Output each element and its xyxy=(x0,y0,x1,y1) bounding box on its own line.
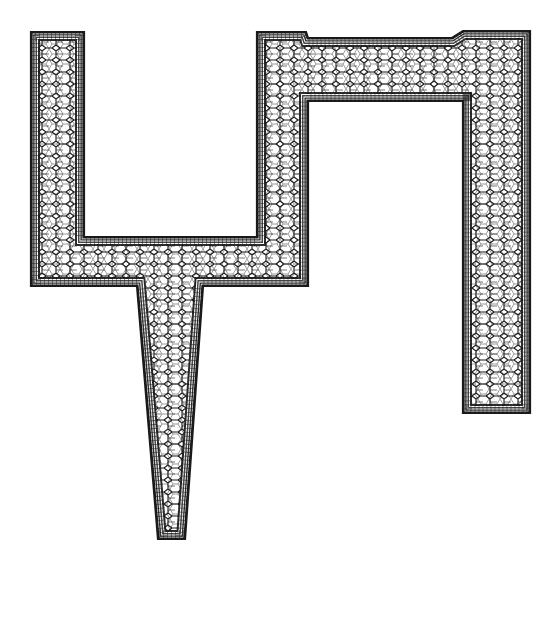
mesh-svg xyxy=(0,0,555,620)
mesh-diagram xyxy=(0,0,555,620)
mesh-body xyxy=(31,31,530,539)
